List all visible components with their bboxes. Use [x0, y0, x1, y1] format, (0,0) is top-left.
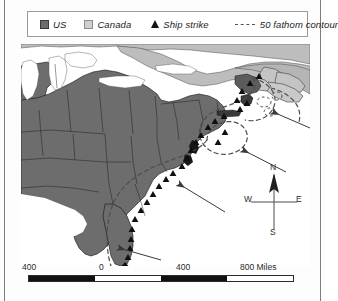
- scale-bar-segments: [28, 275, 294, 282]
- canada-swatch-icon: [84, 20, 93, 29]
- scale-segment-4: [227, 276, 293, 281]
- legend-label-fathom-contour: 50 fathom contour: [260, 19, 338, 30]
- compass-label-east: E: [296, 194, 302, 204]
- dashed-line-icon: [235, 24, 255, 25]
- legend-item-us: US: [40, 19, 66, 30]
- map-legend: US Canada Ship strike 50 fathom contour: [27, 11, 308, 37]
- frame-left-rule: [4, 0, 5, 301]
- frame-right-rule: [320, 0, 321, 301]
- scale-segment-3: [161, 276, 227, 281]
- scale-label-0: 400: [22, 262, 36, 272]
- legend-label-us: US: [53, 19, 66, 30]
- scale-label-2: 400: [176, 262, 190, 272]
- ship-strike-triangle-icon: [151, 20, 159, 28]
- scale-label-3: 800 Miles: [240, 262, 276, 272]
- us-swatch-icon: [40, 20, 49, 29]
- map-scale-bar: 400 0 400 800 Miles: [28, 262, 296, 284]
- legend-item-fathom-contour: 50 fathom contour: [235, 19, 338, 30]
- compass-label-west: W: [244, 194, 252, 204]
- compass-label-north: N: [270, 162, 276, 172]
- legend-label-ship-strike: Ship strike: [163, 19, 208, 30]
- figure-caption: [30, 291, 300, 301]
- legend-item-ship-strike: Ship strike: [151, 19, 208, 30]
- scale-label-1: 0: [99, 262, 104, 272]
- legend-item-canada: Canada: [84, 19, 131, 30]
- compass-label-south: S: [270, 227, 276, 237]
- scale-segment-2: [95, 276, 161, 281]
- legend-label-canada: Canada: [97, 19, 131, 30]
- scale-labels: 400 0 400 800 Miles: [28, 262, 296, 273]
- scale-segment-1: [29, 276, 95, 281]
- compass-rose: N S E W: [243, 163, 305, 241]
